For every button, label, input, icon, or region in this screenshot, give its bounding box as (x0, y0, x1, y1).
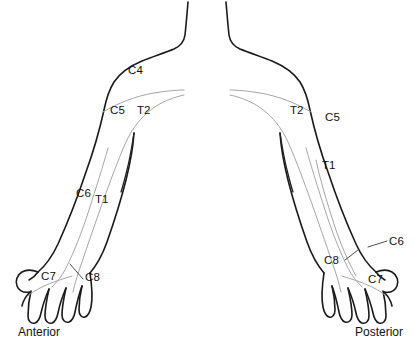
anterior-wrist-outline (29, 272, 38, 280)
label-anterior-t2: T2 (137, 105, 151, 117)
anterior-shoulder-outline (38, 2, 188, 272)
label-anterior-c5: C5 (110, 105, 125, 117)
posterior-inner-arm-outline (280, 133, 324, 273)
label-anterior-t1: T1 (95, 194, 109, 206)
label-anterior-c8: C8 (85, 272, 100, 284)
anterior-leader-c8 (70, 264, 83, 279)
label-posterior-c8: C8 (324, 255, 339, 267)
label-anterior-c6: C6 (76, 188, 91, 200)
anterior-hand-outline (16, 270, 38, 292)
posterior-finger-4-outline (322, 273, 335, 317)
label-posterior-c7: C7 (368, 274, 383, 286)
dermatome-drawing (0, 0, 414, 348)
anterior-torso-notch (121, 133, 134, 192)
label-anterior-c4: C4 (128, 65, 143, 77)
label-anterior-c7: C7 (41, 271, 56, 283)
caption-anterior: Anterior (18, 326, 60, 338)
posterior-leader-c6 (368, 241, 387, 247)
caption-posterior: Posterior (355, 326, 403, 338)
posterior-torso-notch (280, 133, 293, 192)
dermatome-figure: C4 C5 T2 C6 T1 C7 C8 T2 C5 T1 C6 C8 C7 A… (0, 0, 414, 348)
posterior-shoulder-outline (226, 2, 376, 272)
label-posterior-c5: C5 (325, 112, 340, 124)
label-posterior-c6: C6 (389, 236, 404, 248)
label-posterior-t1: T1 (322, 160, 336, 172)
label-posterior-t2: T2 (290, 105, 304, 117)
posterior-leader-c8 (345, 250, 358, 260)
